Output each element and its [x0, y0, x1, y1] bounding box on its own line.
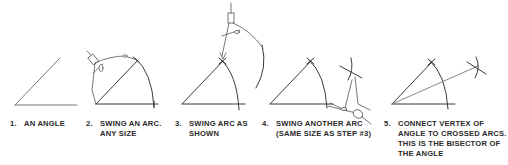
step-number: 1.: [10, 119, 24, 129]
step-4-arc: [270, 58, 362, 108]
step-text: (SAME SIZE AS STEP #3): [262, 129, 371, 139]
step-text: THIS IS THE BISECTOR OF: [384, 139, 507, 149]
step-text: CONNECT VERTEX OF: [398, 119, 484, 128]
step-number: 5.: [384, 119, 398, 129]
step-text: AN ANGLE: [24, 119, 65, 128]
step-4-compass-icon: [328, 77, 371, 124]
step-text: ANY SIZE: [86, 129, 162, 139]
step-3-arc: [182, 45, 264, 110]
step-1-angle: [15, 58, 77, 105]
step-text: SWING AN ARC.: [100, 119, 162, 128]
step-number: 4.: [262, 119, 276, 129]
step-text: THE ANGLE: [384, 149, 507, 159]
step-number: 3.: [175, 119, 189, 129]
step-text: ANGLE TO CROSSED ARCS.: [384, 129, 507, 139]
step-text: SWING ANOTHER ARC: [276, 119, 363, 128]
step-5-bisector: [392, 57, 486, 109]
step-2-compass-icon: [87, 51, 137, 104]
step-1-caption: 1.AN ANGLE: [10, 119, 65, 129]
step-3-caption: 3.SWING ARC AS SHOWN: [175, 119, 248, 139]
step-2-caption: 2.SWING AN ARC. ANY SIZE: [86, 119, 162, 139]
step-4-caption: 4.SWING ANOTHER ARC (SAME SIZE AS STEP #…: [262, 119, 371, 139]
step-text: SHOWN: [175, 129, 248, 139]
step-text: SWING ARC AS: [189, 119, 248, 128]
step-3-compass-icon: [220, 3, 263, 59]
step-5-caption: 5.CONNECT VERTEX OF ANGLE TO CROSSED ARC…: [384, 119, 507, 159]
step-number: 2.: [86, 119, 100, 129]
step-2-arc: [96, 57, 158, 108]
